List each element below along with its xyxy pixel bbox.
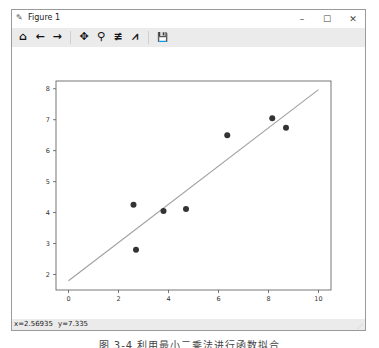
data-point xyxy=(131,202,137,208)
data-point xyxy=(161,208,167,214)
navigation-toolbar: ⌂ ← → ✥ ⚲ ≢ ⩘ 💾 xyxy=(12,28,365,47)
subplots-icon[interactable]: ≢ xyxy=(111,30,125,44)
y-tick-label: 5 xyxy=(46,178,50,186)
pan-icon[interactable]: ✥ xyxy=(77,30,91,44)
y-tick-label: 8 xyxy=(46,85,50,93)
data-point xyxy=(269,115,275,121)
maximize-button[interactable]: ☐ xyxy=(317,12,337,26)
title-bar[interactable]: ✎ Figure 1 – ☐ ✕ xyxy=(12,10,365,28)
toolbar-separator xyxy=(148,31,149,44)
y-tick-label: 4 xyxy=(46,209,50,217)
data-point xyxy=(224,132,230,138)
close-button[interactable]: ✕ xyxy=(343,12,363,26)
x-tick-label: 4 xyxy=(166,295,170,303)
data-point xyxy=(183,206,189,212)
x-tick-label: 10 xyxy=(314,295,322,303)
x-tick-label: 6 xyxy=(216,295,220,303)
toolbar-separator xyxy=(70,31,71,44)
cursor-x-readout: x=2.56935 xyxy=(14,320,53,328)
home-icon[interactable]: ⌂ xyxy=(16,30,30,44)
status-bar: x=2.56935 y=7.335 ⋰ xyxy=(12,319,365,330)
figure-window: ✎ Figure 1 – ☐ ✕ ⌂ ← → ✥ ⚲ ≢ ⩘ 💾 0246810… xyxy=(11,9,366,331)
window-title: Figure 1 xyxy=(28,13,60,22)
y-tick-label: 6 xyxy=(46,147,50,155)
cursor-y-readout: y=7.335 xyxy=(58,320,88,328)
y-tick-label: 7 xyxy=(46,116,50,124)
y-tick-label: 3 xyxy=(46,240,50,248)
edit-axes-icon[interactable]: ⩘ xyxy=(128,30,142,44)
figure-caption: 图 3-4 利用最小二乘法进行函数拟合 xyxy=(0,337,379,348)
scatter-plot[interactable]: 02468102345678 xyxy=(12,47,365,320)
resize-grip-icon[interactable]: ⋰ xyxy=(357,322,363,329)
x-tick-label: 2 xyxy=(116,295,120,303)
figure-canvas[interactable]: 02468102345678 xyxy=(12,47,365,320)
forward-icon[interactable]: → xyxy=(50,30,64,44)
back-icon[interactable]: ← xyxy=(33,30,47,44)
x-tick-label: 0 xyxy=(66,295,70,303)
zoom-icon[interactable]: ⚲ xyxy=(94,30,108,44)
y-tick-label: 2 xyxy=(46,271,50,279)
data-point xyxy=(283,125,289,131)
app-icon: ✎ xyxy=(16,13,23,22)
x-tick-label: 8 xyxy=(266,295,270,303)
save-icon[interactable]: 💾 xyxy=(155,30,169,44)
data-point xyxy=(133,247,139,253)
minimize-button[interactable]: – xyxy=(292,12,312,26)
